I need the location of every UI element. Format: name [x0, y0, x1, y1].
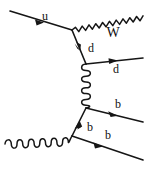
feynman-diagram-figure: u W d d b: [0, 0, 144, 182]
incoming-up-quark-line: [10, 11, 72, 30]
internal-down-quark-label: d: [88, 41, 94, 55]
incoming-up-quark-label: u: [42, 9, 48, 23]
feynman-diagram-canvas: u W d d b: [0, 0, 144, 182]
outgoing-down-quark-label: d: [113, 62, 119, 76]
internal-b-quark-label: b: [87, 120, 93, 134]
outgoing-b-quark-upper-label: b: [115, 97, 121, 111]
internal-b-quark-line: [72, 108, 86, 136]
outgoing-b-quark-lower-label: b: [105, 128, 111, 142]
incoming-gluon-coil: [5, 136, 72, 148]
internal-down-quark-line: [72, 30, 86, 64]
w-boson-label: W: [106, 25, 120, 40]
gluon-propagator-coil: [82, 64, 91, 108]
